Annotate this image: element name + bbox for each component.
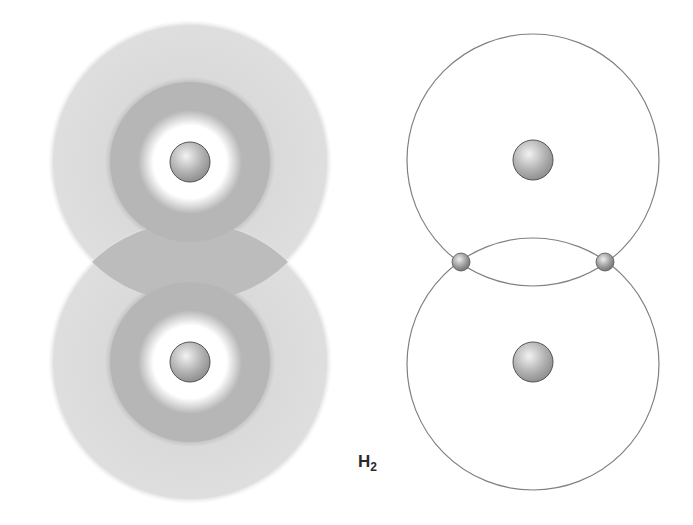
shared-electron-left [452,253,470,271]
h2-diagram [0,0,693,525]
label-subscript: 2 [370,460,377,474]
shared-electron-right [596,253,614,271]
nucleus-bottom-right [513,342,553,382]
electron-cloud-panel [48,20,332,504]
nucleus-bottom-left [170,342,210,382]
label-element: H [358,452,370,471]
nucleus-top-left [170,142,210,182]
nucleus-top-right [513,140,553,180]
orbit-model-panel [407,34,659,490]
molecule-label: H2 [358,452,377,474]
